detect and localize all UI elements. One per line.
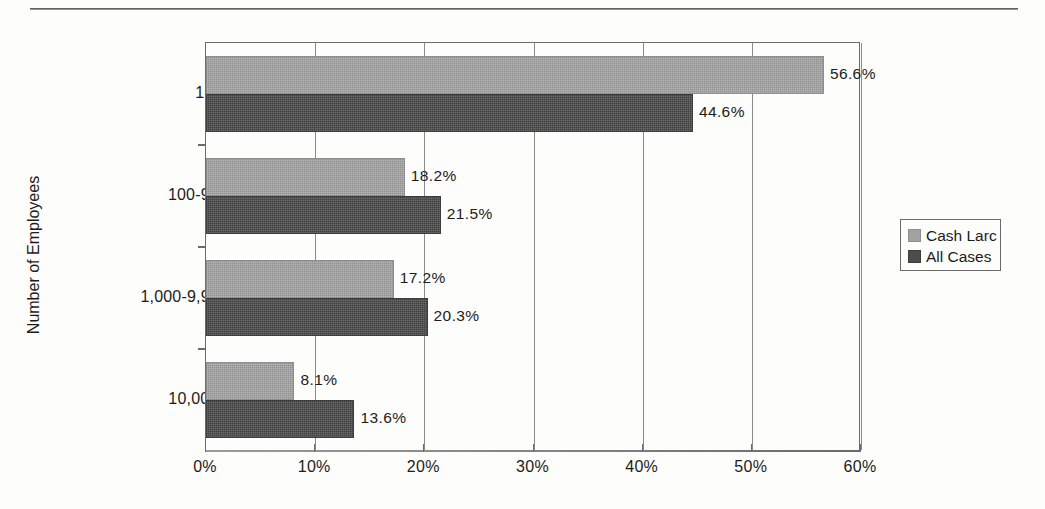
x-axis-tick-label: 20% [407,458,440,476]
x-axis-tick [423,444,424,452]
bar-value-label: 21.5% [447,205,493,223]
bar-value-label: 56.6% [830,65,876,83]
bar-1-2 [206,298,428,336]
legend-label: All Cases [926,248,991,266]
x-axis-tick-label: 30% [516,458,549,476]
bar-value-label: 20.3% [434,307,480,325]
x-axis-tick-label: 10% [298,458,331,476]
bar-0-3 [206,362,294,400]
bar-1-1 [206,196,441,234]
x-axis-tick [751,444,752,452]
bar-value-label: 17.2% [400,269,446,287]
legend-swatch-icon [908,229,921,242]
bar-1-3 [206,400,354,438]
x-axis-tick [205,444,206,452]
chart-legend: Cash LarcAll Cases [900,219,1001,271]
bar-0-2 [206,260,394,298]
bar-1-0 [206,94,693,132]
gridline [752,43,753,450]
legend-swatch-icon [908,250,921,263]
legend-label: Cash Larc [926,227,997,245]
x-axis-tick [860,444,861,452]
gridline [861,43,862,450]
bar-value-label: 13.6% [360,409,406,427]
legend-item-0: Cash Larc [908,225,1000,246]
x-axis-tick [314,444,315,452]
x-axis-tick-label: 60% [844,458,877,476]
bar-value-label: 44.6% [699,103,745,121]
x-axis-tick-label: 0% [193,458,217,476]
bar-value-label: 18.2% [411,167,457,185]
legend-item-1: All Cases [908,246,1000,267]
page-divider-rule [30,8,1018,10]
bar-0-0 [206,56,824,94]
bar-0-1 [206,158,405,196]
y-axis-title: Number of Employees [25,155,43,355]
x-axis-tick-label: 50% [734,458,767,476]
bar-value-label: 8.1% [300,371,337,389]
chart-page: Number of Employees 1-99100-9991,000-9,9… [0,0,1045,509]
x-axis-tick-label: 40% [625,458,658,476]
x-axis-tick [533,444,534,452]
x-axis-tick [642,444,643,452]
